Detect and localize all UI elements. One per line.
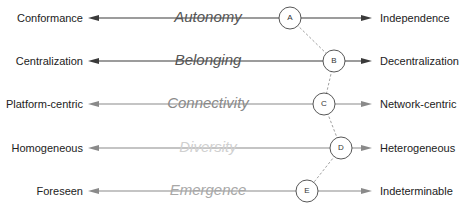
right-pole-label: Network-centric [380, 97, 456, 111]
right-pole-label: Decentralization [380, 54, 459, 68]
left-pole-label: Centralization [16, 54, 83, 68]
profile-diagram: Conformance Autonomy Independence A Cent… [0, 0, 461, 213]
left-pole-label: Homogeneous [11, 141, 83, 155]
node-b-label: B [323, 50, 345, 72]
dimension-label: Belonging [175, 51, 242, 69]
node-e-label: E [296, 180, 318, 202]
arrow-right-icon [361, 15, 372, 21]
left-pole-label: Foreseen [37, 184, 83, 198]
dimension-label: Diversity [179, 138, 237, 156]
left-pole-label: Conformance [17, 11, 83, 25]
arrow-left-icon [88, 101, 99, 107]
arrow-left-icon [88, 15, 99, 21]
arrow-left-icon [88, 145, 99, 151]
node-d-label: D [330, 137, 352, 159]
dimension-label: Autonomy [174, 8, 242, 26]
right-pole-label: Indeterminable [380, 184, 453, 198]
arrow-left-icon [88, 188, 99, 194]
right-pole-label: Independence [380, 11, 450, 25]
arrow-left-icon [88, 58, 99, 64]
arrow-right-icon [361, 145, 372, 151]
arrow-right-icon [361, 101, 372, 107]
dimension-label: Connectivity [167, 94, 249, 112]
dimension-label: Emergence [170, 181, 247, 199]
node-c-label: C [313, 93, 335, 115]
arrow-right-icon [361, 58, 372, 64]
left-pole-label: Platform-centric [6, 97, 83, 111]
arrow-right-icon [361, 188, 372, 194]
right-pole-label: Heterogeneous [380, 141, 455, 155]
node-a-label: A [279, 7, 301, 29]
